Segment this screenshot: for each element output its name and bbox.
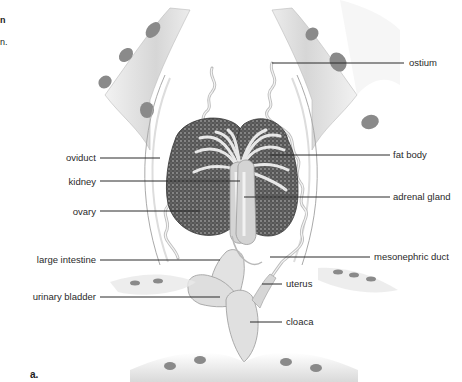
amphibian-female-urogenital-diagram: n n. oviduct kidney ovary large intestin… xyxy=(0,0,462,382)
label-urinary-bladder: urinary bladder xyxy=(33,291,96,302)
edge-text-fragment-2: n. xyxy=(0,37,8,47)
kidney-right xyxy=(236,160,256,245)
label-adrenal-gland: adrenal gland xyxy=(393,191,451,202)
label-large-intestine: large intestine xyxy=(37,254,96,265)
edge-text-fragment-1: n xyxy=(0,15,6,25)
label-oviduct: oviduct xyxy=(66,152,96,163)
label-uterus: uterus xyxy=(286,278,312,289)
panel-label: a. xyxy=(30,369,38,380)
label-ostium: ostium xyxy=(409,57,437,68)
uterus xyxy=(252,274,276,308)
label-mesonephric-duct: mesonephric duct xyxy=(374,251,449,262)
label-kidney: kidney xyxy=(69,176,96,187)
label-fat-body: fat body xyxy=(393,149,427,160)
body-wall-right xyxy=(272,0,400,265)
label-ovary: ovary xyxy=(73,206,96,217)
label-cloaca: cloaca xyxy=(286,316,313,327)
